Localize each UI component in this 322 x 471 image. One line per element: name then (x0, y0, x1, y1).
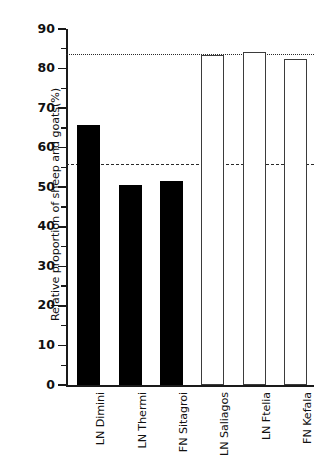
bar-ln-dimini (77, 125, 100, 385)
y-tick-minor-45 (61, 206, 66, 207)
y-tick-label-10: 10 (15, 339, 55, 352)
y-tick-major-80 (58, 68, 66, 70)
bar-ln-thermi (119, 185, 142, 385)
x-label-fn-kefala: FN Kefala (301, 392, 314, 471)
bar-ln-ftelia (243, 52, 266, 385)
y-tick-major-70 (58, 107, 66, 109)
reference-line-islands-mean (66, 54, 314, 55)
y-axis-line (66, 29, 68, 385)
y-tick-major-60 (58, 147, 66, 149)
y-tick-minor-25 (61, 285, 66, 286)
bar-chart-figure: Relative proportion of sheep and goats(%… (0, 0, 322, 471)
y-tick-minor-15 (61, 325, 66, 326)
y-tick-major-40 (58, 226, 66, 228)
x-label-ln-saliagos: LN Saliagos (218, 392, 231, 471)
bar-fn-sitagroi (160, 181, 183, 385)
y-tick-label-70: 70 (15, 102, 55, 115)
y-tick-label-60: 60 (15, 141, 55, 154)
bar-fn-kefala (284, 59, 307, 385)
plot-area: 0102030405060708090 (66, 29, 314, 385)
y-tick-minor-5 (61, 365, 66, 366)
x-label-ln-ftelia: LN Ftelia (260, 392, 273, 471)
y-tick-label-30: 30 (15, 260, 55, 273)
y-tick-minor-75 (61, 88, 66, 89)
x-label-ln-dimini: LN Dimini (94, 392, 107, 471)
bar-ln-saliagos (201, 55, 224, 385)
y-tick-label-50: 50 (15, 181, 55, 194)
reference-line-mainland-mean (66, 164, 314, 165)
y-tick-minor-55 (61, 167, 66, 168)
y-tick-major-0 (58, 384, 66, 386)
y-tick-label-0: 0 (15, 379, 55, 392)
y-tick-label-40: 40 (15, 220, 55, 233)
x-axis-line (66, 385, 314, 387)
y-tick-minor-65 (61, 127, 66, 128)
y-tick-label-80: 80 (15, 62, 55, 75)
y-tick-label-20: 20 (15, 299, 55, 312)
y-tick-major-10 (58, 345, 66, 347)
x-label-ln-thermi: LN Thermi (136, 392, 149, 471)
y-tick-label-90: 90 (15, 23, 55, 36)
y-tick-minor-35 (61, 246, 66, 247)
x-label-fn-sitagroi: FN Sitagroi (177, 392, 190, 471)
y-tick-major-90 (58, 28, 66, 30)
y-tick-major-30 (58, 266, 66, 268)
y-tick-major-20 (58, 305, 66, 307)
y-tick-minor-85 (61, 48, 66, 49)
y-tick-major-50 (58, 186, 66, 188)
